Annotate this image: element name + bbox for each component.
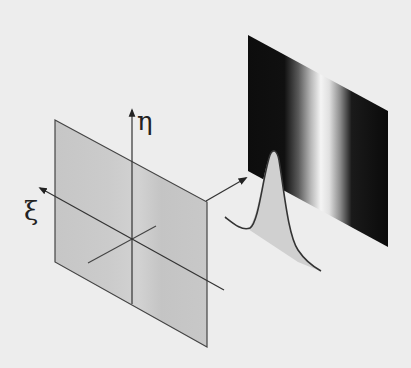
propagation-arrow [206, 178, 246, 201]
diagram-canvas: ξ η [0, 0, 411, 368]
eta-label: η [137, 106, 153, 136]
xi-label: ξ [24, 196, 38, 226]
input-plane [55, 120, 207, 347]
plane-surface [55, 120, 207, 347]
